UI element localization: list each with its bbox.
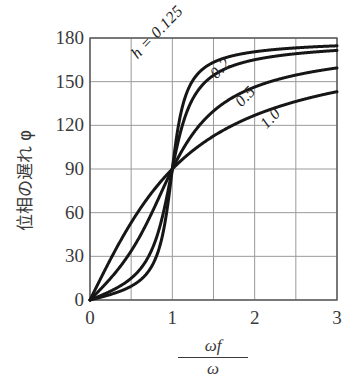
x-axis-title-denominator: ω [178, 358, 248, 379]
y-tick-label: 30 [40, 246, 84, 265]
y-tick-label: 60 [40, 203, 84, 222]
y-tick-label: 120 [40, 115, 84, 134]
x-tick-label: 0 [70, 308, 110, 327]
plot-canvas [0, 0, 358, 392]
y-tick-label: 180 [40, 28, 84, 47]
y-axis-title: 位相の遅れ φ [11, 96, 36, 266]
y-tick-label: 0 [40, 290, 84, 309]
x-tick-label: 2 [235, 308, 275, 327]
x-tick-label: 1 [152, 308, 192, 327]
phase-lag-chart: 0306090120150180 0123 h = 0.1250.20.51.0… [0, 0, 358, 392]
x-tick-label: 3 [317, 308, 357, 327]
x-axis-title-numerator: ωf [178, 336, 248, 358]
y-tick-label: 90 [40, 159, 84, 178]
x-axis-title: ωf ω [178, 336, 248, 378]
y-tick-label: 150 [40, 72, 84, 91]
